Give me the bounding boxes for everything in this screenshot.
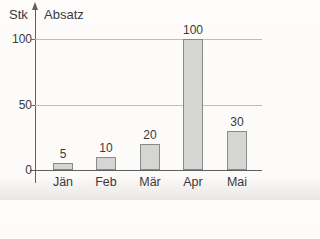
y-tick-mark	[31, 39, 35, 40]
bar	[183, 39, 203, 170]
category-label: Jän	[41, 175, 85, 189]
bar	[227, 131, 247, 170]
y-tick-label: 50	[0, 98, 32, 112]
y-axis-line	[35, 9, 36, 183]
bar-value-label: 10	[84, 141, 128, 155]
bar-chart: Stk Absatz 050100 5Jän10Feb20Mär100Apr30…	[0, 0, 269, 200]
bar-value-label: 20	[128, 128, 172, 142]
x-axis-line	[30, 170, 262, 171]
bar-value-label: 5	[41, 147, 85, 161]
category-label: Mär	[128, 175, 172, 189]
gridline	[35, 105, 262, 106]
bar	[96, 157, 116, 170]
y-axis-unit-label: Stk	[9, 7, 28, 22]
y-tick-label: 100	[0, 32, 32, 46]
y-tick-mark	[31, 105, 35, 106]
bar-value-label: 100	[171, 23, 215, 37]
y-axis-title: Absatz	[44, 7, 84, 22]
bar	[53, 163, 73, 170]
bar-value-label: 30	[215, 115, 259, 129]
category-label: Feb	[84, 175, 128, 189]
category-label: Mai	[215, 175, 259, 189]
category-label: Apr	[171, 175, 215, 189]
bar	[140, 144, 160, 170]
y-tick-label: 0	[0, 163, 32, 177]
gridline	[35, 39, 262, 40]
